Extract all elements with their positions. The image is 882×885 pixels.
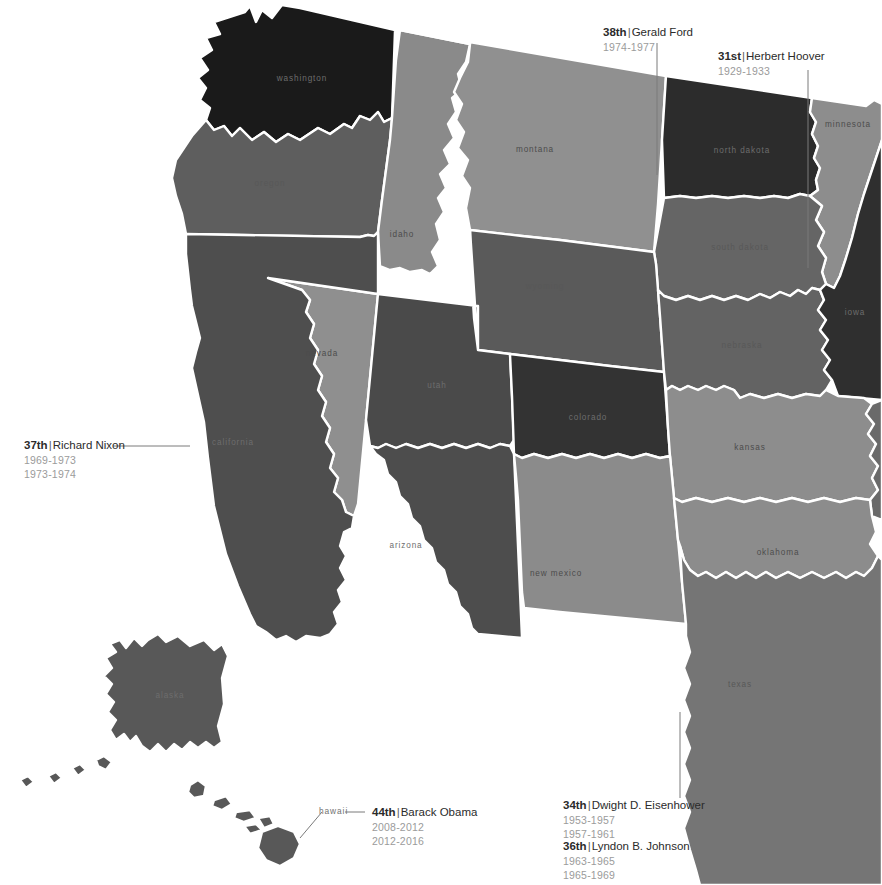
state-texas[interactable]: [680, 546, 882, 885]
annotation-richard-nixon-name: Richard Nixon: [53, 439, 125, 451]
state-south-dakota[interactable]: [654, 194, 826, 300]
annotation-gerald-ford-term-1: 1974-1977: [603, 40, 693, 54]
annotation-gerald-ford: 38th|Gerald Ford 1974-1977: [603, 25, 693, 54]
annotation-dwight-eisenhower: 34th|Dwight D. Eisenhower 1953-1957 1957…: [563, 798, 705, 841]
annotation-richard-nixon-title: 37th|Richard Nixon: [24, 438, 125, 453]
annotation-richard-nixon-term-1: 1969-1973: [24, 453, 125, 467]
state-arizona[interactable]: [370, 444, 522, 638]
annotation-gerald-ford-ordinal: 38th: [603, 26, 627, 38]
annotation-lyndon-johnson-term-1: 1963-1965: [563, 854, 690, 868]
annotation-lyndon-johnson-title: 36th|Lyndon B. Johnson: [563, 839, 690, 854]
annotation-dwight-eisenhower-name: Dwight D. Eisenhower: [592, 799, 705, 811]
annotation-herbert-hoover: 31st|Herbert Hoover 1929-1933: [718, 49, 825, 78]
annotation-barack-obama-name: Barack Obama: [401, 806, 478, 818]
state-alaska[interactable]: [20, 634, 228, 788]
annotation-gerald-ford-name: Gerald Ford: [632, 26, 693, 38]
annotation-gerald-ford-title: 38th|Gerald Ford: [603, 25, 693, 40]
state-label-arizona: arizona: [389, 541, 422, 550]
map-infographic: washington oregon idaho montana north da…: [0, 0, 882, 885]
annotation-herbert-hoover-name: Herbert Hoover: [746, 50, 825, 62]
state-kansas[interactable]: [666, 386, 878, 502]
annotation-dwight-eisenhower-term-1: 1953-1957: [563, 813, 705, 827]
annotation-herbert-hoover-title: 31st|Herbert Hoover: [718, 49, 825, 64]
annotation-richard-nixon-ordinal: 37th: [24, 439, 48, 451]
annotation-barack-obama-term-1: 2008-2012: [372, 820, 477, 834]
state-shapes-group: [20, 5, 882, 885]
annotation-barack-obama-term-2: 2012-2016: [372, 834, 477, 848]
annotation-barack-obama: 44th|Barack Obama 2008-2012 2012-2016: [372, 805, 477, 848]
annotation-herbert-hoover-term-1: 1929-1933: [718, 64, 825, 78]
state-label-hawaii-callout: hawaii: [319, 806, 348, 816]
annotation-richard-nixon-term-2: 1973-1974: [24, 467, 125, 481]
annotation-richard-nixon: 37th|Richard Nixon 1969-1973 1973-1974: [24, 438, 125, 481]
annotation-dwight-eisenhower-title: 34th|Dwight D. Eisenhower: [563, 798, 705, 813]
state-wyoming[interactable]: [470, 230, 664, 372]
us-west-choropleth-map: washington oregon idaho montana north da…: [0, 0, 882, 885]
annotation-lyndon-johnson: 36th|Lyndon B. Johnson 1963-1965 1965-19…: [563, 839, 690, 882]
state-colorado[interactable]: [510, 354, 670, 458]
annotation-barack-obama-ordinal: 44th: [372, 806, 396, 818]
annotation-barack-obama-title: 44th|Barack Obama: [372, 805, 477, 820]
state-new-mexico[interactable]: [514, 454, 686, 624]
state-north-dakota[interactable]: [662, 76, 820, 198]
state-hawaii[interactable]: [188, 780, 300, 866]
state-oklahoma[interactable]: [674, 498, 878, 578]
annotation-lyndon-johnson-ordinal: 36th: [563, 840, 587, 852]
annotation-lyndon-johnson-term-2: 1965-1969: [563, 868, 690, 882]
state-nebraska[interactable]: [658, 288, 832, 398]
annotation-lyndon-johnson-name: Lyndon B. Johnson: [592, 840, 690, 852]
annotation-dwight-eisenhower-ordinal: 34th: [563, 799, 587, 811]
annotation-herbert-hoover-ordinal: 31st: [718, 50, 741, 62]
